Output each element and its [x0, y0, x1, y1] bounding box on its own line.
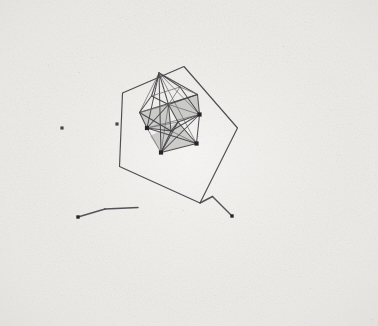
scanned-figure-svg [0, 0, 378, 326]
figure-canvas: Polyhedral cluster structure enclosed in… [0, 0, 378, 326]
paper-speckles-overlay [0, 0, 378, 326]
